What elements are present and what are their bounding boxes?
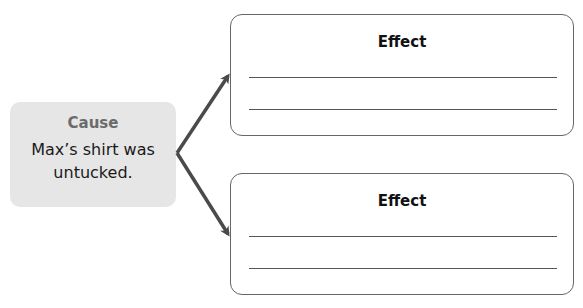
effect-box-1: Effect — [230, 14, 574, 136]
arrow-to-effect-2 — [177, 153, 228, 234]
answer-line[interactable] — [249, 77, 557, 78]
arrow-to-effect-1 — [177, 76, 228, 153]
effect-title: Effect — [231, 192, 573, 210]
effect-title: Effect — [231, 33, 573, 51]
answer-line[interactable] — [249, 236, 557, 237]
answer-line[interactable] — [249, 268, 557, 269]
answer-line[interactable] — [249, 109, 557, 110]
effect-box-2: Effect — [230, 173, 574, 295]
